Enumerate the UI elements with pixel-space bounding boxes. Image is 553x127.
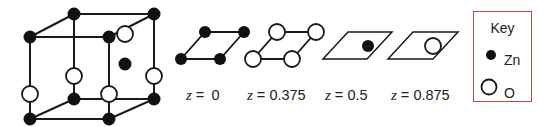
layer-z0	[175, 26, 250, 65]
zn-atom-icon	[24, 113, 37, 126]
layer-z05	[323, 32, 392, 59]
key-o-label: O	[504, 85, 515, 101]
layer-label-z0375: z = 0.375	[247, 87, 306, 104]
equals-sign: =	[397, 87, 414, 103]
layer-label-z0875: z = 0.875	[391, 87, 450, 104]
zn-atom-icon	[68, 93, 81, 106]
equals-sign: =	[192, 87, 209, 103]
o-atom-icon	[101, 86, 117, 102]
z-value: 0.375	[269, 87, 305, 103]
key-title: Key	[474, 20, 531, 36]
o-atom-icon	[117, 26, 133, 42]
legend-key: Key Zn O	[473, 11, 532, 102]
z-value: 0	[211, 87, 219, 103]
o-atom-icon	[22, 86, 38, 102]
z-value: 0.875	[413, 87, 449, 103]
crystal-structure-diagram	[0, 0, 553, 127]
zn-atom-icon	[68, 8, 81, 21]
layer-z0375	[245, 24, 324, 67]
equals-sign: =	[331, 87, 348, 103]
z-value: 0.5	[347, 87, 367, 103]
unit-cell-edges	[30, 14, 154, 119]
key-zn-label: Zn	[504, 52, 520, 68]
layer-z0875	[388, 32, 458, 59]
layer-label-z0: z = 0	[186, 87, 219, 104]
layer-label-z05: z = 0.5	[325, 87, 368, 104]
zn-atom-icon	[148, 93, 161, 106]
zn-atom-icon	[103, 113, 116, 126]
zn-atom-icon	[148, 8, 161, 21]
zn-atom-icon	[103, 31, 116, 44]
o-atom-icon	[66, 68, 82, 84]
unit-cell-atoms	[22, 8, 162, 126]
o-atom-icon	[146, 68, 162, 84]
zn-atom-icon	[119, 58, 132, 71]
zn-atom-icon	[24, 31, 37, 44]
equals-sign: =	[253, 87, 270, 103]
